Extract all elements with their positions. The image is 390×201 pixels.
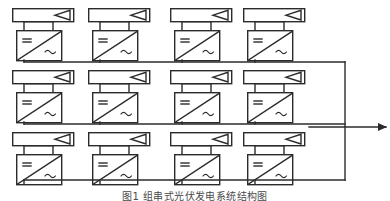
unit-r3c3 (171, 133, 232, 185)
unit-r1c3 (171, 9, 232, 62)
pv-panel-r1c1 (13, 9, 74, 22)
pv-panel-r3c1 (13, 133, 74, 146)
pv-panel-r2c1 (13, 71, 74, 84)
inverter-r2c3 (175, 93, 220, 123)
figure-root: 图1 组串式光伏发电系统结构图 (0, 0, 390, 201)
unit-r2c4 (244, 71, 305, 124)
pv-panel-r3c4 (244, 133, 305, 146)
pv-panel-r2c2 (89, 71, 150, 84)
unit-r1c4 (244, 9, 305, 62)
inverter-r2c4 (248, 93, 293, 123)
inverter-r2c2 (93, 93, 138, 123)
unit-r2c1 (13, 71, 74, 124)
figure-caption: 图1 组串式光伏发电系统结构图 (0, 190, 390, 201)
inverter-r1c4 (248, 31, 293, 61)
pv-panel-r2c3 (171, 71, 232, 84)
unit-r2c3 (171, 71, 232, 124)
pv-panel-r1c2 (89, 9, 150, 22)
unit-r1c2 (89, 9, 150, 62)
pv-panel-r2c4 (244, 71, 305, 84)
unit-r3c1 (13, 133, 74, 185)
inverter-r1c3 (175, 31, 220, 61)
unit-r1c1 (13, 9, 74, 62)
pv-panel-r3c3 (171, 133, 232, 146)
inverter-r2c1 (17, 93, 62, 123)
pv-panel-r1c4 (244, 9, 305, 22)
unit-r3c2 (89, 133, 150, 185)
unit-r3c4 (244, 133, 305, 185)
unit-r2c2 (89, 71, 150, 124)
pv-panel-r3c2 (89, 133, 150, 146)
inverter-r1c2 (93, 31, 138, 61)
pv-panel-r1c3 (171, 9, 232, 22)
inverter-r1c1 (17, 31, 62, 61)
pv-system-diagram (0, 0, 390, 201)
